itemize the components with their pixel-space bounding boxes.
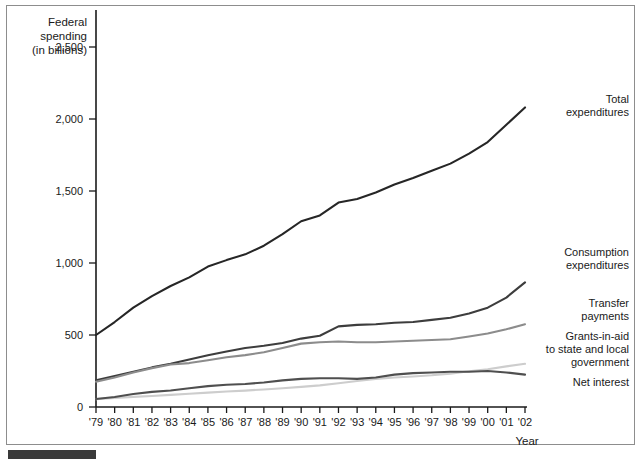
y-axis-tick-label: 1,500 [55, 185, 83, 197]
y-axis-tick-label: 2,000 [55, 113, 83, 125]
series-label-5: Net interest [573, 376, 629, 388]
series-label-line: payments [581, 310, 629, 322]
x-axis-tick-label: '90 [294, 416, 308, 428]
series-line [96, 364, 525, 399]
series-label-2: Consumptionexpenditures [564, 246, 629, 271]
x-axis-tick-label: '93 [350, 416, 364, 428]
figure-container: Federalspending(in billions)05001,0001,5… [0, 0, 641, 461]
series-label-4: Grants-in-aidto state and localgovernmen… [546, 330, 629, 368]
y-axis-title-line: Federal [48, 16, 87, 28]
x-axis-tick-label: '89 [275, 416, 289, 428]
series-label-line: Consumption [564, 246, 629, 258]
x-axis-tick-label: '96 [406, 416, 420, 428]
series-label-line: Net interest [573, 376, 629, 388]
x-axis-tick-label: '84 [182, 416, 196, 428]
x-axis-tick-label: '98 [443, 416, 457, 428]
y-axis-tick-label: 1,000 [55, 257, 83, 269]
series-label-line: expenditures [566, 259, 629, 271]
x-axis-tick-label: '00 [481, 416, 495, 428]
y-axis-tick-label: 500 [65, 329, 83, 341]
x-axis-title: Year [515, 435, 538, 446]
x-axis-tick-label: '85 [201, 416, 215, 428]
x-axis-tick-label: '80 [107, 416, 121, 428]
x-axis-tick-label: '87 [238, 416, 252, 428]
x-axis-tick-label: '99 [462, 416, 476, 428]
series-label-line: expenditures [566, 106, 629, 118]
x-axis-tick-label: '79 [89, 416, 103, 428]
footer-bar [8, 450, 96, 459]
x-axis-tick-label: '97 [425, 416, 439, 428]
x-axis-tick-label: '91 [313, 416, 327, 428]
x-axis-tick-label: '02 [518, 416, 532, 428]
series-label-line: Transfer [588, 297, 629, 309]
x-axis-tick-label: '81 [126, 416, 140, 428]
x-axis-tick-label: '95 [387, 416, 401, 428]
series-label-line: government [571, 356, 629, 368]
series-label-1: Totalexpenditures [566, 93, 629, 118]
series-label-line: to state and local [546, 343, 629, 355]
y-axis-tick-label: 2,500 [55, 41, 83, 53]
x-axis-tick-label: '94 [369, 416, 383, 428]
x-axis-tick-label: '01 [499, 416, 513, 428]
x-axis-tick-label: '88 [257, 416, 271, 428]
series-label-3: Transferpayments [581, 297, 629, 322]
chart-frame: Federalspending(in billions)05001,0001,5… [6, 5, 635, 445]
series-label-line: Grants-in-aid [565, 330, 629, 342]
series-line [96, 107, 525, 335]
x-axis-tick-label: '83 [163, 416, 177, 428]
x-axis-tick-label: '82 [145, 416, 159, 428]
y-axis-tick-label: 0 [77, 401, 83, 413]
x-axis-tick-label: '92 [331, 416, 345, 428]
line-chart: Federalspending(in billions)05001,0001,5… [7, 6, 636, 446]
x-axis-tick-label: '86 [219, 416, 233, 428]
series-label-line: Total [606, 93, 629, 105]
